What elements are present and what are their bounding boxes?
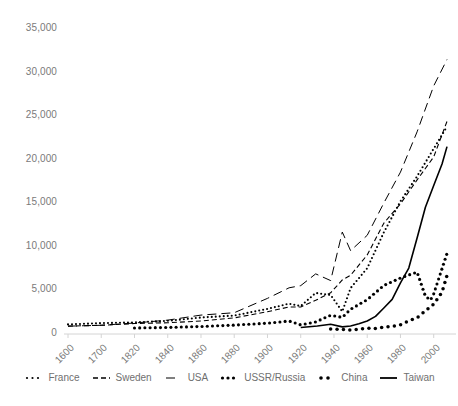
chart-legend: FranceSwedenUSAUSSR/RussiaChinaTaiwan (0, 372, 458, 383)
legend-label: France (48, 372, 79, 383)
legend-swatch-icon (91, 373, 113, 382)
legend-item-ussr-russia[interactable]: USSR/Russia (219, 372, 305, 383)
y-axis-tick-label: 5,000 (0, 283, 57, 294)
legend-swatch-icon (163, 373, 185, 382)
legend-item-sweden[interactable]: Sweden (91, 372, 152, 383)
y-axis-tick-label: 25,000 (0, 109, 57, 120)
y-axis-tick-label: 15,000 (0, 196, 57, 207)
legend-swatch-icon (378, 373, 400, 382)
y-axis-tick-label: 30,000 (0, 66, 57, 77)
series-usa (68, 60, 447, 327)
legend-item-china[interactable]: China (316, 372, 367, 383)
y-axis-tick-label: 35,000 (0, 22, 57, 33)
series-layer (67, 60, 448, 332)
legend-item-taiwan[interactable]: Taiwan (378, 372, 434, 383)
legend-label: Taiwan (403, 372, 434, 383)
series-sweden (68, 121, 447, 326)
series-france (67, 129, 446, 326)
legend-swatch-icon (23, 373, 45, 382)
axis-layer (64, 334, 456, 338)
legend-item-france[interactable]: France (23, 372, 79, 383)
series-taiwan (301, 147, 447, 328)
legend-item-usa[interactable]: USA (163, 372, 209, 383)
y-axis-tick-label: 20,000 (0, 153, 57, 164)
legend-swatch-icon (316, 373, 338, 382)
legend-label: China (341, 372, 367, 383)
y-axis-tick-label: 0 (0, 327, 57, 338)
chart-container: 05,00010,00015,00020,00025,00030,00035,0… (0, 0, 458, 406)
y-axis-tick-label: 10,000 (0, 240, 57, 251)
legend-label: USSR/Russia (244, 372, 305, 383)
legend-label: Sweden (116, 372, 152, 383)
legend-label: USA (188, 372, 209, 383)
legend-swatch-icon (219, 373, 241, 382)
